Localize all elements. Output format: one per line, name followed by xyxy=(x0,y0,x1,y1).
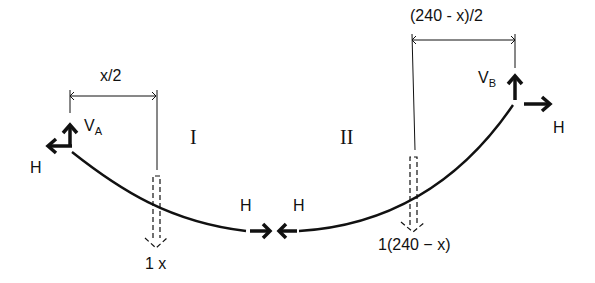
dimension-left-label: x/2 xyxy=(100,68,121,84)
vb-symbol: V xyxy=(478,69,489,86)
va-subscript: A xyxy=(95,125,102,137)
segment-label-right: II xyxy=(340,127,353,147)
va-symbol: V xyxy=(84,117,95,134)
reaction-label-va: VA xyxy=(84,118,102,134)
load-label-right: 1(240 − x) xyxy=(378,237,450,253)
cut-force-arrows xyxy=(250,224,297,238)
reaction-arrows-a xyxy=(48,125,77,153)
diagram-canvas: x/2 (240 - x)/2 I II VA H VB H H H 1 x 1… xyxy=(0,0,595,283)
reaction-label-hb: H xyxy=(553,120,565,136)
dimension-right xyxy=(412,34,515,150)
load-label-left: 1 x xyxy=(145,256,166,272)
diagram-drawing xyxy=(0,0,595,283)
cable-segment-left xyxy=(72,152,246,231)
dimension-right-label: (240 - x)/2 xyxy=(410,8,483,24)
cable-segment-right xyxy=(299,105,513,231)
reaction-label-ha: H xyxy=(30,160,42,176)
reaction-arrows-b xyxy=(508,76,550,111)
reaction-label-vb: VB xyxy=(478,70,496,86)
cut-force-label-left: H xyxy=(240,198,252,214)
vb-subscript: B xyxy=(489,77,496,89)
segment-label-left: I xyxy=(190,127,197,147)
cut-force-label-right: H xyxy=(293,198,305,214)
load-arrow-left xyxy=(145,176,167,248)
